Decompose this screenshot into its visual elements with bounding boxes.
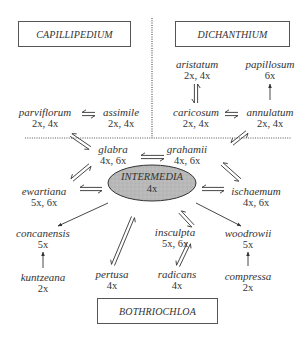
node-aristatum: aristatum 2x, 4x — [176, 58, 218, 82]
arrow-forward — [202, 191, 224, 194]
node-kuntzeana: kuntzeana 2x — [21, 271, 66, 295]
node-radicans: radicans 4x — [158, 268, 197, 292]
node-grahamii: grahamii 4x, 6x — [167, 143, 207, 167]
node-name: insculpta — [155, 226, 195, 238]
node-papillosum: papillosum 6x — [246, 58, 295, 82]
node-name: ischaemum — [231, 185, 281, 197]
node-ploidy: 5x — [225, 239, 272, 251]
arrow-forward — [80, 191, 102, 194]
arrow-forward — [82, 116, 95, 119]
node-parviflorum: parviflorum 2x, 4x — [19, 106, 72, 130]
relation-parviflorum-assimile — [82, 110, 95, 118]
relation-ewartiana-intermedia — [80, 185, 102, 193]
node-name: assimile — [103, 106, 139, 118]
arrow-backward — [82, 110, 95, 113]
relation-parviflorum-glabra — [70, 134, 91, 150]
node-ploidy: 5x — [16, 239, 70, 251]
arrow-backward — [114, 218, 135, 266]
arrow-forward — [71, 164, 89, 179]
relation-grahamii-ischaemum — [221, 163, 241, 181]
arrow-backward — [80, 185, 102, 188]
node-ploidy: 5x, 6x — [155, 238, 195, 250]
relation-glabra-grahamii — [141, 153, 164, 161]
node-name: kuntzeana — [21, 271, 66, 283]
arrow-backward — [223, 163, 241, 179]
relation-caricosum-annulatum — [225, 110, 238, 118]
genus-box-bothriochloa: BOTHRIOCHLOA — [97, 298, 218, 324]
node-name: papillosum — [246, 58, 295, 70]
arrow-backward — [73, 166, 91, 181]
genus-box-capillipedium: CAPILLIPEDIUM — [18, 21, 131, 47]
arrow-backward — [198, 84, 201, 103]
node-woodrowii: woodrowii 5x — [225, 227, 272, 251]
node-ploidy: 4x — [158, 280, 197, 292]
relation-intermedia-pertusa — [111, 216, 136, 265]
arrow-forward — [192, 84, 195, 103]
node-ploidy: 2x — [21, 283, 66, 295]
arrow-backward — [225, 110, 238, 113]
node-compressa: compressa 2x — [225, 270, 272, 294]
node-ploidy: 4x — [96, 280, 129, 292]
node-name: grahamii — [167, 143, 207, 155]
genus-box-dichanthium: DICHANTHIUM — [175, 21, 290, 47]
arrow-backward — [202, 185, 224, 188]
node-concanensis: concanensis 5x — [16, 227, 70, 251]
genus-label: CAPILLIPEDIUM — [36, 29, 112, 40]
genus-label: DICHANTHIUM — [198, 29, 268, 40]
arrow-forward — [141, 159, 164, 162]
node-ischaemum: ischaemum 4x, 6x — [231, 185, 281, 209]
node-pertusa: pertusa 4x — [96, 268, 129, 292]
relation-glabra-ewartiana — [71, 164, 91, 181]
node-ploidy: 2x, 4x — [19, 118, 72, 130]
node-name: glabra — [98, 143, 127, 155]
relation-intermedia-ischaemum — [202, 185, 224, 193]
node-name: aristatum — [176, 58, 218, 70]
node-name: radicans — [158, 268, 197, 280]
node-name: concanensis — [16, 227, 70, 239]
node-name: INTERMEDIA — [108, 171, 196, 183]
node-ploidy: 2x, 4x — [173, 118, 219, 130]
node-intermedia: INTERMEDIA 4x — [108, 171, 196, 195]
node-ploidy: 4x — [108, 183, 196, 195]
node-ploidy: 2x, 4x — [176, 70, 218, 82]
node-annulatum: annulatum 2x, 4x — [246, 106, 293, 130]
node-insculpta: insculpta 5x, 6x — [155, 226, 195, 250]
relation-aristatum-caricosum — [192, 84, 200, 103]
node-ewartiana: ewartiana 5x, 6x — [22, 185, 67, 209]
arrow-backward — [72, 134, 91, 147]
arrow-forward — [111, 216, 132, 264]
node-ploidy: 5x, 6x — [22, 197, 67, 209]
node-name: caricosum — [173, 106, 219, 118]
node-name: ewartiana — [22, 185, 67, 197]
node-caricosum: caricosum 2x, 4x — [173, 106, 219, 130]
arrow-forward — [225, 116, 238, 119]
node-assimile: assimile 2x, 4x — [103, 106, 139, 130]
node-ploidy: 2x, 4x — [246, 118, 293, 130]
arrow-forward — [70, 136, 89, 149]
relation-intermedia-insculpta — [179, 211, 194, 227]
genus-label: BOTHRIOCHLOA — [119, 306, 196, 317]
node-name: parviflorum — [19, 106, 72, 118]
node-ploidy: 4x, 6x — [167, 155, 207, 167]
arrow-forward — [221, 165, 239, 181]
node-ploidy: 4x, 6x — [231, 197, 281, 209]
node-ploidy: 2x — [225, 282, 272, 294]
node-ploidy: 6x — [246, 70, 295, 82]
node-glabra: glabra 4x, 6x — [98, 143, 127, 167]
arrow-backward — [141, 153, 164, 156]
node-name: annulatum — [246, 106, 293, 118]
node-name: woodrowii — [225, 227, 272, 239]
node-ploidy: 4x, 6x — [98, 155, 127, 167]
node-name: pertusa — [96, 268, 129, 280]
node-name: compressa — [225, 270, 272, 282]
node-ploidy: 2x, 4x — [103, 118, 139, 130]
